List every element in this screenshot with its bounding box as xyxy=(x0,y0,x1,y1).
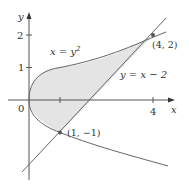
x-tick-label-4: 4 xyxy=(150,106,156,117)
shaded-region xyxy=(29,35,153,133)
point-4-2 xyxy=(151,33,155,37)
x-axis-label: x xyxy=(171,104,177,115)
point-1-neg1 xyxy=(58,131,62,135)
y-axis-arrow-icon xyxy=(27,12,32,19)
region-diagram: y x 0 4 2 1 x = y2 y = x − 2 (4, 2) (1, … xyxy=(0,0,189,187)
point-label-1-neg1: (1, −1) xyxy=(67,127,101,138)
line-equation-label: y = x − 2 xyxy=(119,69,167,80)
y-tick-label-2: 2 xyxy=(17,30,23,41)
parabola-equation-label: x = y2 xyxy=(50,45,81,57)
y-tick-label-1: 1 xyxy=(18,62,24,73)
y-axis-label: y xyxy=(17,11,24,22)
origin-label: 0 xyxy=(18,103,24,114)
x-axis-arrow-icon xyxy=(168,98,175,103)
point-label-4-2: (4, 2) xyxy=(152,39,178,50)
